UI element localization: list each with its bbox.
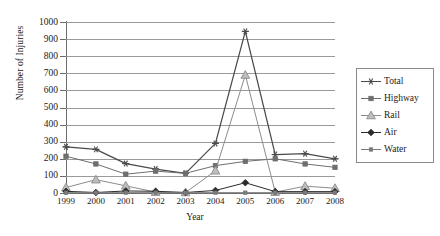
data-point-small-square	[333, 191, 336, 194]
legend-label: Water	[382, 143, 406, 156]
data-point-square	[124, 172, 128, 176]
data-point-square	[64, 154, 68, 158]
data-point-small-square	[64, 191, 67, 194]
y-tick-label: 300	[18, 141, 58, 142]
y-tick-label: 700	[18, 73, 58, 74]
y-axis-title: Number of Injuries	[15, 0, 25, 133]
plot-area: 01002003004005006007008009001000 1999200…	[66, 22, 335, 193]
data-point-small-square	[244, 191, 247, 194]
legend-item-water[interactable]: Water	[360, 141, 430, 158]
chart-legend: TotalHighwayRailAirWater	[356, 68, 434, 163]
legend-label: Air	[382, 126, 397, 139]
legend-label: Highway	[382, 92, 419, 105]
legend-marker-small-square-icon	[360, 143, 382, 156]
legend-label: Rail	[382, 109, 400, 122]
data-point-small-square	[154, 191, 157, 194]
data-point-small-square	[369, 148, 372, 151]
series-layer	[66, 22, 335, 193]
data-point-square	[303, 162, 307, 166]
y-tick-label: 800	[18, 56, 58, 57]
data-point-small-square	[184, 191, 187, 194]
data-point-diamond-filled	[368, 129, 375, 136]
y-tick-label: 500	[18, 107, 58, 108]
y-tick-label: 600	[18, 90, 58, 91]
data-point-asterisk	[122, 161, 129, 167]
data-point-asterisk	[368, 79, 375, 85]
data-point-small-square	[214, 191, 217, 194]
data-point-small-square	[94, 191, 97, 194]
data-point-asterisk	[63, 144, 70, 150]
x-tick-label: 2008	[315, 196, 355, 206]
data-point-square	[243, 159, 247, 163]
legend-item-air[interactable]: Air	[360, 124, 430, 141]
data-point-square	[153, 169, 157, 173]
data-point-small-square	[303, 191, 306, 194]
data-point-triangle	[211, 166, 220, 174]
legend-marker-square-icon	[360, 92, 382, 105]
y-tick-label: 1000	[18, 22, 58, 23]
data-point-diamond-filled	[242, 179, 249, 186]
data-point-small-square	[124, 191, 127, 194]
series-total	[63, 28, 339, 176]
y-tick-label: 900	[18, 39, 58, 40]
legend-label: Total	[382, 75, 403, 88]
y-tick-label: 100	[18, 175, 58, 176]
series-highway	[64, 154, 337, 176]
data-point-asterisk	[92, 146, 99, 152]
series-rail	[62, 71, 340, 196]
data-point-square	[333, 165, 337, 169]
data-point-triangle	[367, 111, 376, 119]
x-axis-title: Year	[55, 212, 335, 222]
data-point-triangle	[241, 71, 250, 79]
data-point-square	[183, 171, 187, 175]
y-tick-label: 0	[18, 193, 58, 194]
data-point-asterisk	[302, 151, 309, 157]
data-point-square	[94, 162, 98, 166]
data-point-square	[273, 157, 277, 161]
legend-item-highway[interactable]: Highway	[360, 90, 430, 107]
y-tick-label: 200	[18, 158, 58, 159]
legend-marker-asterisk-icon	[360, 75, 382, 88]
legend-item-rail[interactable]: Rail	[360, 107, 430, 124]
legend-marker-diamond-filled-icon	[360, 126, 382, 139]
data-point-triangle	[91, 175, 100, 183]
legend-item-total[interactable]: Total	[360, 73, 430, 90]
data-point-small-square	[274, 191, 277, 194]
legend-marker-triangle-icon	[360, 109, 382, 122]
data-point-square	[369, 96, 373, 100]
injuries-line-chart: Number of Injuries Year 0100200300400500…	[0, 0, 440, 236]
y-tick-label: 400	[18, 124, 58, 125]
data-point-asterisk	[332, 156, 339, 162]
